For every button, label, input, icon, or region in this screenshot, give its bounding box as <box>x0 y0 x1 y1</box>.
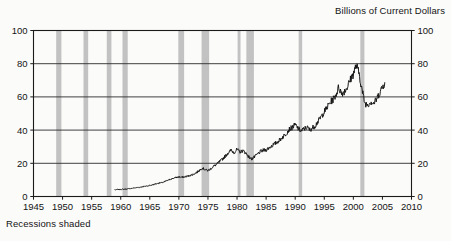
recession-band <box>84 31 89 197</box>
axis-labels-group: 0204060801000204060801001945195019551960… <box>12 25 434 212</box>
x-axis-label: 1980 <box>226 201 247 212</box>
x-axis-label: 1960 <box>110 201 131 212</box>
x-axis-label: 1990 <box>285 201 306 212</box>
y-axis-label-right: 20 <box>418 158 429 169</box>
recession-band <box>246 31 254 197</box>
y-axis-label-left: 20 <box>17 158 28 169</box>
chart-plot-area: 0204060801000204060801001945195019551960… <box>0 0 451 241</box>
y-axis-label-left: 40 <box>17 125 28 136</box>
y-axis-label-left: 60 <box>17 91 28 102</box>
x-axis-label: 1995 <box>314 201 335 212</box>
recession-band <box>360 31 364 197</box>
recession-band <box>178 31 184 197</box>
recession-band <box>299 31 302 197</box>
x-axis-label: 1955 <box>81 201 102 212</box>
x-axis-label: 2005 <box>372 201 393 212</box>
x-axis-label: 1950 <box>52 201 73 212</box>
x-axis-label: 1985 <box>256 201 277 212</box>
x-axis-label: 2000 <box>343 201 364 212</box>
recession-band <box>202 31 210 197</box>
x-axis-label: 1965 <box>139 201 160 212</box>
chart-caption: Recessions shaded <box>6 218 91 229</box>
y-axis-label-right: 100 <box>418 25 434 36</box>
x-axis-label: 1970 <box>168 201 189 212</box>
recession-bands-group <box>56 31 364 197</box>
y-axis-label-right: 60 <box>418 91 429 102</box>
y-axis-label-left: 80 <box>17 58 28 69</box>
x-axis-label: 1975 <box>197 201 218 212</box>
x-axis-label: 2010 <box>401 201 422 212</box>
y-axis-label-right: 80 <box>418 58 429 69</box>
recession-band <box>107 31 112 197</box>
gridlines-group <box>34 64 412 164</box>
chart-container: Billions of Current Dollars 020406080100… <box>0 0 451 241</box>
recession-band <box>238 31 241 197</box>
plot-frame <box>34 31 412 197</box>
y-axis-label-right: 40 <box>418 125 429 136</box>
recession-band <box>122 31 127 197</box>
x-axis-label: 1945 <box>23 201 44 212</box>
plot-border <box>34 31 412 197</box>
y-axis-label-left: 100 <box>12 25 28 36</box>
recession-band <box>56 31 61 197</box>
